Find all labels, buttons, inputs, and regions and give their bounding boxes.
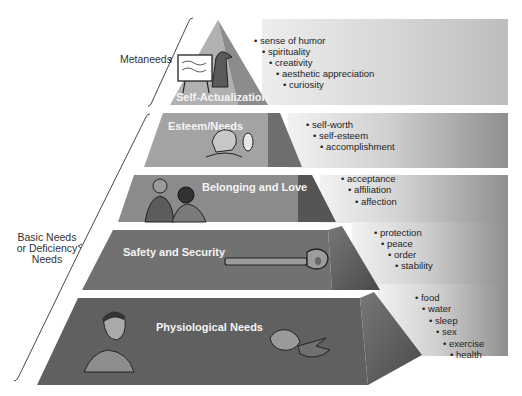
tier-label-physiological: Physiological Needs xyxy=(156,321,263,333)
svg-text:• accomplishment: • accomplishment xyxy=(320,141,395,152)
list-item: order xyxy=(394,249,416,260)
svg-text:• curiosity: • curiosity xyxy=(283,79,324,90)
tier-label-esteem: Esteem/Needs xyxy=(168,120,243,132)
svg-text:• peace: • peace xyxy=(381,238,413,249)
svg-text:• affection: • affection xyxy=(355,196,397,207)
list-item: affiliation xyxy=(354,184,391,195)
svg-text:• stability: • stability xyxy=(395,260,433,271)
list-item: acceptance xyxy=(347,173,396,184)
list-item: protection xyxy=(380,227,422,238)
list-item: water xyxy=(427,303,451,314)
list-item: creativity xyxy=(275,57,313,68)
svg-text:• self-worth: • self-worth xyxy=(306,119,353,130)
svg-text:• spirituality: • spirituality xyxy=(262,46,310,57)
list-item: peace xyxy=(387,238,413,249)
list-item: exercise xyxy=(449,338,484,349)
svg-text:• affiliation: • affiliation xyxy=(348,184,391,195)
tier-label-belonging: Belonging and Love xyxy=(202,181,307,193)
list-item: stability xyxy=(401,260,433,271)
list-item: food xyxy=(421,292,440,303)
svg-text:• creativity: • creativity xyxy=(269,57,313,68)
list-item: accomplishment xyxy=(326,141,395,152)
metaneeds-label: Metaneeds xyxy=(120,53,172,65)
svg-text:• protection: • protection xyxy=(374,227,422,238)
list-item: sense of humor xyxy=(260,35,325,46)
list-item: sleep xyxy=(435,315,458,326)
list-item: sex xyxy=(442,326,457,337)
list-item: aesthetic appreciation xyxy=(282,68,374,79)
svg-text:• aesthetic appreciation: • aesthetic appreciation xyxy=(276,68,374,79)
svg-text:• food: • food xyxy=(415,292,439,303)
svg-text:• sex: • sex xyxy=(436,326,457,337)
svg-text:• sleep: • sleep xyxy=(429,315,458,326)
list-item: spirituality xyxy=(268,46,310,57)
svg-text:• order: • order xyxy=(388,249,416,260)
list-item: affection xyxy=(361,196,397,207)
svg-text:• exercise: • exercise xyxy=(443,338,484,349)
svg-text:• health: • health xyxy=(450,349,482,360)
list-item: self-worth xyxy=(312,119,353,130)
svg-text:• acceptance: • acceptance xyxy=(341,173,396,184)
list-item: self-esteem xyxy=(319,130,368,141)
list-item: health xyxy=(456,349,482,360)
svg-text:• sense of humor: • sense of humor xyxy=(254,35,325,46)
basic-needs-label-line-3: Needs xyxy=(32,253,62,265)
tier-label-safety: Safety and Security xyxy=(123,246,226,258)
tier-label-self-actualization: Self-Actualization xyxy=(176,91,269,103)
svg-text:• water: • water xyxy=(422,303,451,314)
svg-text:• self-esteem: • self-esteem xyxy=(313,130,368,141)
list-item: curiosity xyxy=(289,79,324,90)
maslow-pyramid: Self-Actualization Esteem/Needs Belongin… xyxy=(0,0,522,396)
